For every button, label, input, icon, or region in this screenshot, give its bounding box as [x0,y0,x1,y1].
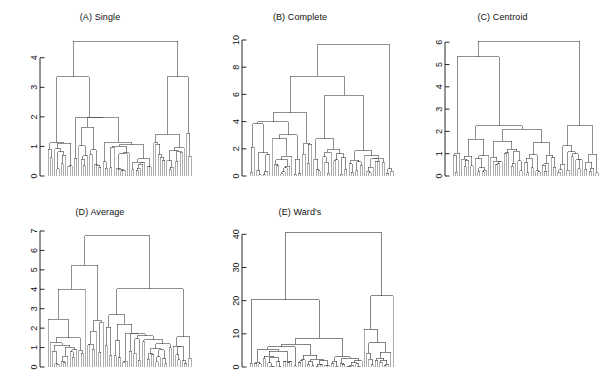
panel-single: (A) Single 01234 [0,0,200,195]
dendrogram-plot-centroid: 0123456 [400,0,605,195]
y-tick-label: 0 [231,173,241,178]
panel-title-centroid: (C) Centroid [400,12,605,22]
dendrogram-plot-average: 01234567 [0,195,200,386]
y-tick-label: 3 [434,107,444,112]
y-tick-label: 4 [29,55,39,60]
dendrogram-branches [453,41,598,176]
panel-average: (D) Average 01234567 [0,195,200,386]
panel-title-average: (D) Average [0,207,200,217]
dendrogram-plot-complete: 0246810 [200,0,400,195]
y-tick-label: 20 [231,296,241,306]
y-tick-label: 5 [434,62,444,67]
y-tick-label: 2 [29,326,39,331]
y-tick-label: 10 [231,35,241,45]
y-tick-label: 0 [434,173,444,178]
dendrogram-plot-wards: 010203040 [200,195,400,386]
y-tick-label: 6 [434,40,444,45]
dendrogram-figure: (A) Single 01234 (B) Complete 0246810 (C… [0,0,605,386]
y-tick-label: 6 [231,92,241,97]
y-tick-label: 7 [29,228,39,233]
panel-title-wards: (E) Ward's [200,207,400,217]
panel-centroid: (C) Centroid 0123456 [400,0,605,195]
y-tick-label: 4 [434,84,444,89]
y-tick-label: 3 [29,85,39,90]
y-tick-label: 30 [231,262,241,272]
y-tick-label: 4 [231,119,241,124]
y-tick-label: 4 [29,287,39,292]
panel-wards: (E) Ward's 010203040 [200,195,400,386]
y-tick-label: 0 [29,364,39,369]
dendrogram-branches [250,233,393,367]
y-tick-label: 1 [29,144,39,149]
panel-complete: (B) Complete 0246810 [200,0,400,195]
y-tick-label: 1 [29,345,39,350]
y-tick-label: 10 [231,329,241,339]
dendrogram-branches [48,236,191,367]
y-tick-label: 2 [434,129,444,134]
y-tick-label: 0 [231,364,241,369]
y-tick-label: 2 [29,114,39,119]
panel-empty-slot [400,195,605,386]
dendrogram-branches [250,45,393,176]
panel-title-single: (A) Single [0,12,200,22]
y-tick-label: 3 [29,306,39,311]
panel-title-complete: (B) Complete [200,12,400,22]
y-tick-label: 1 [434,151,444,156]
dendrogram-plot-single: 01234 [0,0,200,195]
y-tick-label: 2 [231,146,241,151]
y-tick-label: 5 [29,267,39,272]
y-tick-label: 8 [231,65,241,70]
y-tick-label: 0 [29,173,39,178]
y-tick-label: 40 [231,229,241,239]
dendrogram-branches [48,41,191,176]
y-tick-label: 6 [29,248,39,253]
